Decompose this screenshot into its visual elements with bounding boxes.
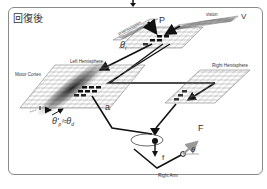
right-arm-label: Right Arm [158,173,178,178]
vision-label: vision [206,12,218,17]
diagram-canvas: proprioception P vision V θi Left Hemisp… [0,0,267,189]
right-hemisphere-label: Right Hemisphere [212,63,249,68]
p-label: P [159,15,165,25]
a-label: a [105,102,110,112]
right-hemisphere-sheet [165,70,250,103]
top-arrow-icon [130,0,136,7]
equation-label: θ'p≈θd [52,116,74,127]
f-label: f [162,153,165,162]
left-hemisphere-label: Left Hemisphere [70,59,104,64]
v-label: V [241,12,247,21]
force-f-label: F [198,123,204,133]
theta-label: θ [191,145,196,154]
motor-cortex-label: Motor Cortex [15,72,42,77]
arm-joint [131,134,163,157]
